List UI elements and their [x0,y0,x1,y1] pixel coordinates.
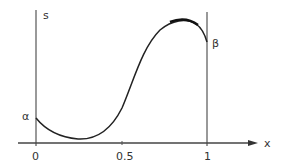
x-axis-label: x [264,137,271,150]
alpha-label: α [22,110,29,123]
x-axis-arrow-icon [248,140,258,146]
x-tick-label-0: 0 [32,150,39,163]
x-tick-label-1: 1 [204,150,211,163]
y-axis-label: s [43,9,49,22]
diagram-canvas: s x α β 0 0.5 1 [0,0,287,166]
beta-label: β [212,37,219,50]
x-tick-label-0-5: 0.5 [116,150,134,163]
solution-curve [36,21,207,139]
